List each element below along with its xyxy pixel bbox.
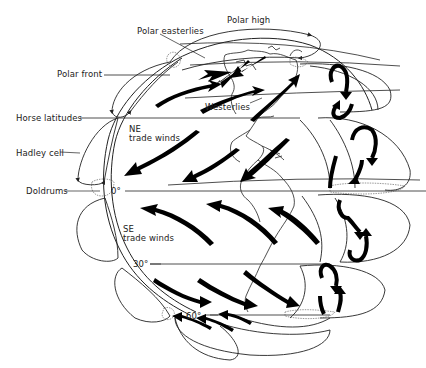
rotation-arrow-10 xyxy=(338,292,341,312)
diagram-graphics xyxy=(0,0,426,368)
label-horse-latitudes: Horse latitudes xyxy=(16,113,82,123)
latitude-lines xyxy=(80,43,426,315)
rotation-arrow-4 xyxy=(330,156,336,188)
label-polar-easterlies: Polar easterlies xyxy=(137,26,204,36)
label-se-trade-winds-line2: trade winds xyxy=(123,233,174,243)
rotation-arrow-1 xyxy=(331,66,347,92)
label-hadley-cell: Hadley cell xyxy=(16,148,64,158)
label-westerlies: Westerlies xyxy=(205,102,250,112)
wind-arrows xyxy=(124,56,320,332)
cell-rotation-arrows xyxy=(320,66,376,314)
label-doldrums: Doldrums xyxy=(26,186,68,196)
left-cells xyxy=(78,29,320,185)
label-equator: 0° xyxy=(111,186,121,196)
rotation-arrow-6 xyxy=(339,200,360,232)
label-polar-front: Polar front xyxy=(57,69,102,79)
label-polar-high: Polar high xyxy=(227,15,270,25)
label-lat-60s: 60° xyxy=(186,311,201,321)
circulation-diagram: Polar high Polar easterlies Polar front … xyxy=(0,0,426,368)
cell-rotation-arrowheads xyxy=(330,92,378,294)
rotation-arrow-3 xyxy=(352,127,376,158)
rotation-arrow-7 xyxy=(350,236,367,261)
rotation-arrow-9 xyxy=(320,296,324,314)
label-ne-trade-winds-line2: trade winds xyxy=(129,133,180,143)
label-lat-30s: 30° xyxy=(133,259,148,269)
rotation-arrow-8 xyxy=(321,265,337,286)
